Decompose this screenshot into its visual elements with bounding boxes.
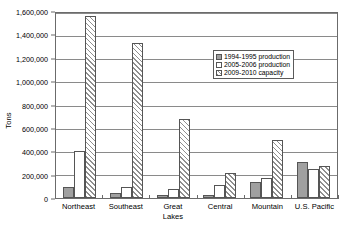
bar bbox=[74, 151, 85, 198]
x-axis-tick-label: Mountain bbox=[244, 199, 291, 227]
bar bbox=[319, 166, 330, 198]
bar-group bbox=[290, 13, 337, 198]
y-axis-tick-label: 200,000 bbox=[22, 171, 48, 180]
y-axis-tick-label: 1,600,000 bbox=[16, 8, 48, 17]
plot-area bbox=[55, 12, 338, 199]
legend-item-label: 2009-2010 capacity bbox=[224, 69, 283, 76]
y-axis-tick-label: 800,000 bbox=[22, 101, 48, 110]
x-axis-tick-label: Northeast bbox=[55, 199, 102, 227]
bar bbox=[85, 16, 96, 198]
bar-group bbox=[56, 13, 103, 198]
bar bbox=[132, 43, 143, 198]
y-axis-tick-label: 0 bbox=[44, 195, 48, 204]
x-axis-tick-label: GreatLakes bbox=[149, 199, 196, 227]
bar-group bbox=[243, 13, 290, 198]
x-axis-tick bbox=[338, 195, 339, 199]
legend-swatch-icon bbox=[216, 54, 222, 60]
x-axis-tick-label: U.S. Pacific bbox=[291, 199, 338, 227]
x-axis-tick-label: Central bbox=[197, 199, 244, 227]
bar-group bbox=[150, 13, 197, 198]
y-axis-tick-label: 1,200,000 bbox=[16, 54, 48, 63]
legend-item: 2009-2010 capacity bbox=[216, 69, 290, 76]
y-axis-tick-label: 600,000 bbox=[22, 124, 48, 133]
x-axis-tick-label: Southeast bbox=[102, 199, 149, 227]
y-axis-tick-label: 400,000 bbox=[22, 148, 48, 157]
bars-layer bbox=[56, 13, 337, 198]
legend-item: 1994-1995 production bbox=[216, 53, 290, 60]
legend-item-label: 2005-2006 production bbox=[224, 61, 290, 68]
legend-swatch-icon bbox=[216, 70, 222, 76]
legend-item-label: 1994-1995 production bbox=[224, 53, 290, 60]
bar bbox=[308, 169, 319, 198]
y-axis-tick-label: 1,400,000 bbox=[16, 31, 48, 40]
x-axis-tick-labels: NortheastSoutheastGreatLakesCentralMount… bbox=[55, 199, 338, 227]
y-axis-tick-labels: 1,600,0001,400,0001,200,0001,000,000800,… bbox=[0, 12, 55, 199]
y-axis-tick-label: 1,000,000 bbox=[16, 78, 48, 87]
bar-chart: Tons 1,600,0001,400,0001,200,0001,000,00… bbox=[0, 0, 343, 241]
bar-group bbox=[196, 13, 243, 198]
bar bbox=[297, 162, 308, 198]
legend-item: 2005-2006 production bbox=[216, 61, 290, 68]
legend-swatch-icon bbox=[216, 62, 222, 68]
bar bbox=[272, 140, 283, 198]
chart-legend: 1994-1995 production2005-2006 production… bbox=[213, 50, 294, 79]
bar bbox=[179, 119, 190, 198]
bar-group bbox=[103, 13, 150, 198]
